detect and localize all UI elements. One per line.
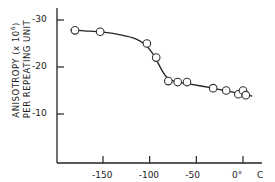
y-tick-label: -10 <box>32 108 47 118</box>
x-tick-label: -100 <box>139 170 159 180</box>
data-point <box>222 87 230 95</box>
y-tick-label: -20 <box>32 61 47 71</box>
x-ticks <box>103 156 243 163</box>
data-point <box>174 78 182 86</box>
x-axis-unit: C <box>257 170 263 180</box>
y-axis-title-line1: ANISOTROPY (x 106) <box>9 15 21 125</box>
data-point <box>165 77 173 85</box>
anisotropy-chart <box>0 0 275 182</box>
data-point <box>143 40 151 48</box>
data-point <box>242 91 250 99</box>
fit-curve <box>70 30 252 96</box>
x-tick-label: -150 <box>92 170 112 180</box>
y-ticks <box>57 20 64 114</box>
y-axis-title-line2: PER REPEATING UNIT <box>22 14 32 124</box>
y-tick-label: -30 <box>32 14 47 24</box>
data-point <box>71 27 79 35</box>
data-point <box>152 54 160 62</box>
data-point <box>96 28 104 36</box>
data-point <box>209 84 217 92</box>
data-points <box>71 27 249 99</box>
x-tick-label: 0° <box>232 170 242 180</box>
x-tick-label: -50 <box>185 170 200 180</box>
data-point <box>183 78 191 86</box>
